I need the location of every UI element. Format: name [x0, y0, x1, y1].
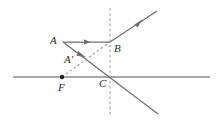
label-point-c: C	[99, 78, 106, 89]
label-point-f: F	[58, 82, 65, 93]
focal-point-dot	[60, 75, 64, 79]
optics-ray-diagram: A A' B C F	[0, 0, 223, 129]
centre-ray-arrowhead-icon	[76, 51, 86, 57]
refracted-ray-upper-right	[110, 11, 157, 42]
refracted-ray-arrowhead-icon	[135, 19, 143, 27]
label-point-b: B	[114, 43, 121, 54]
label-point-a-prime: A'	[64, 54, 73, 65]
incident-ray-arrowhead-icon	[84, 39, 90, 45]
label-point-a: A	[50, 35, 57, 46]
ray-diagram-canvas	[0, 0, 223, 129]
